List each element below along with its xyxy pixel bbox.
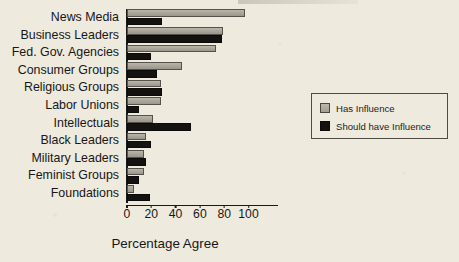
bar-should-have-influence bbox=[127, 141, 151, 149]
legend: Has Influence Should have Influence bbox=[311, 93, 448, 139]
x-tick-label: 20 bbox=[145, 207, 159, 221]
legend-item-should-have-influence: Should have Influence bbox=[320, 119, 431, 133]
bar-has-influence bbox=[127, 168, 144, 176]
category-axis-labels: News MediaBusiness LeadersFed. Gov. Agen… bbox=[0, 9, 123, 203]
x-tick-mark bbox=[224, 205, 225, 208]
bar-should-have-influence bbox=[127, 70, 157, 78]
category-label: Fed. Gov. Agencies bbox=[0, 44, 123, 62]
bar-has-influence bbox=[127, 62, 182, 70]
category-label: Labor Unions bbox=[0, 97, 123, 115]
x-axis-line bbox=[126, 205, 278, 207]
x-axis-ticks: 020406080100 bbox=[126, 207, 326, 223]
x-tick-label: 100 bbox=[238, 207, 258, 221]
bar-has-influence bbox=[127, 150, 144, 158]
category-label: Black Leaders bbox=[0, 132, 123, 150]
legend-swatch-icon bbox=[320, 121, 330, 131]
bar-should-have-influence bbox=[127, 53, 151, 61]
bar-should-have-influence bbox=[127, 88, 162, 96]
category-label: Military Leaders bbox=[0, 150, 123, 168]
category-label: Consumer Groups bbox=[0, 62, 123, 80]
legend-swatch-icon bbox=[320, 103, 330, 113]
x-axis-title: Percentage Agree bbox=[0, 236, 330, 251]
bar-should-have-influence bbox=[127, 158, 146, 166]
x-tick-label: 40 bbox=[169, 207, 183, 221]
category-label: Intellectuals bbox=[0, 115, 123, 133]
bar-has-influence bbox=[127, 9, 245, 17]
x-tick-mark bbox=[199, 205, 200, 208]
x-tick-label: 0 bbox=[124, 207, 131, 221]
legend-label: Should have Influence bbox=[336, 121, 431, 132]
x-tick-mark bbox=[151, 205, 152, 208]
bar-has-influence bbox=[127, 115, 153, 123]
bar-should-have-influence bbox=[127, 123, 191, 131]
x-tick-mark bbox=[175, 205, 176, 208]
bar-should-have-influence bbox=[127, 176, 139, 184]
bar-has-influence bbox=[127, 80, 161, 88]
x-tick-label: 80 bbox=[217, 207, 231, 221]
bar-chart: News MediaBusiness LeadersFed. Gov. Agen… bbox=[0, 0, 459, 262]
scan-artifact bbox=[238, 0, 358, 4]
legend-item-has-influence: Has Influence bbox=[320, 101, 395, 115]
bar-should-have-influence bbox=[127, 35, 222, 43]
bar-has-influence bbox=[127, 133, 146, 141]
bar-has-influence bbox=[127, 45, 216, 53]
category-label: Business Leaders bbox=[0, 27, 123, 45]
x-tick-mark bbox=[126, 205, 127, 208]
bar-should-have-influence bbox=[127, 106, 139, 114]
bar-has-influence bbox=[127, 185, 134, 193]
x-tick-mark bbox=[248, 205, 249, 208]
x-tick-label: 60 bbox=[193, 207, 207, 221]
bar-has-influence bbox=[127, 27, 223, 35]
bar-has-influence bbox=[127, 97, 161, 105]
plot-area bbox=[126, 9, 326, 205]
category-label: News Media bbox=[0, 9, 123, 27]
legend-label: Has Influence bbox=[336, 103, 395, 114]
bar-should-have-influence bbox=[127, 18, 162, 26]
bar-should-have-influence bbox=[127, 194, 150, 202]
category-label: Foundations bbox=[0, 185, 123, 203]
category-label: Religious Groups bbox=[0, 79, 123, 97]
category-label: Feminist Groups bbox=[0, 167, 123, 185]
